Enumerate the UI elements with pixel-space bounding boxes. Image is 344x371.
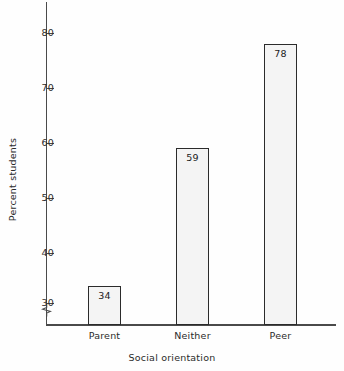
y-tick-label: 80 [32,28,54,38]
y-tick-40: 40 [0,253,54,254]
y-tick-label: 70 [32,83,54,93]
y-axis-title: Percent students [7,120,18,240]
y-tick-label: 50 [32,193,54,203]
bar-value-label: 59 [177,153,208,163]
x-tick-label-peer: Peer [246,331,316,341]
bar-chart: 80 70 60 50 40 30 34 59 78 Parent Neithe… [0,0,344,371]
y-tick-label: 40 [32,248,54,258]
bar-neither: 59 [176,148,209,325]
x-tick-label-neither: Neither [158,331,228,341]
y-axis-line [46,2,47,325]
y-tick-label: 30 [32,298,54,308]
y-tick-80: 80 [0,33,54,34]
y-tick-30: 30 [0,303,54,304]
x-tick-label-parent: Parent [70,331,140,341]
bar-value-label: 34 [89,291,120,301]
y-tick-70: 70 [0,88,54,89]
x-axis-title: Social orientation [0,352,344,363]
bar-value-label: 78 [265,49,296,59]
bar-peer: 78 [264,44,297,325]
bar-parent: 34 [88,286,121,325]
y-tick-label: 60 [32,138,54,148]
